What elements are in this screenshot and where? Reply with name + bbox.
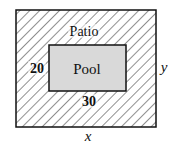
pool-height-label: 20	[30, 61, 44, 76]
outer-height-label: y	[159, 59, 168, 75]
patio-pool-diagram: Patio Pool 20 30 x y	[0, 0, 173, 145]
pool-width-label: 30	[82, 94, 96, 109]
pool-label: Pool	[73, 61, 101, 77]
patio-label: Patio	[70, 24, 99, 39]
outer-width-label: x	[84, 128, 92, 144]
